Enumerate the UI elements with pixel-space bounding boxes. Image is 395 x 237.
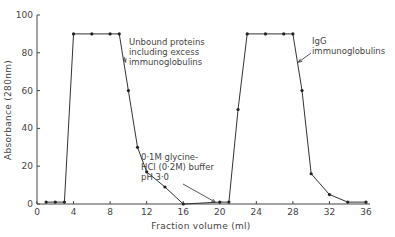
data-point <box>264 32 267 35</box>
x-tick-label: 20 <box>214 207 226 217</box>
x-tick-label: 36 <box>360 207 372 217</box>
data-point <box>282 32 285 35</box>
y-tick-label: 0 <box>27 199 33 209</box>
data-point <box>364 201 367 204</box>
y-tick-label: 60 <box>22 86 34 96</box>
data-point <box>54 201 57 204</box>
data-point <box>236 108 239 111</box>
data-point <box>118 32 121 35</box>
annotations: Unbound proteinsincluding excessimmunogl… <box>123 36 386 202</box>
absorbance-chart: 04812162024283236020406080100 Unbound pr… <box>0 0 395 237</box>
annotation-label: Unbound proteinsincluding excessimmunogl… <box>129 37 205 67</box>
data-point <box>90 32 93 35</box>
x-tick-label: 4 <box>71 207 77 217</box>
y-tick-label: 100 <box>16 10 33 20</box>
data-point <box>109 32 112 35</box>
y-tick-label: 40 <box>22 123 34 133</box>
x-tick-label: 24 <box>251 207 263 217</box>
data-point <box>72 32 75 35</box>
data-series <box>45 32 368 205</box>
data-point <box>136 146 139 149</box>
annotation-arrow <box>298 53 311 62</box>
data-point <box>310 172 313 175</box>
data-point <box>63 201 66 204</box>
x-tick-label: 12 <box>141 207 152 217</box>
data-point <box>328 193 331 196</box>
data-point <box>45 201 48 204</box>
annotation-label: 0·1M glycine-HCl (0·2M) bufferpH 3·0 <box>141 152 214 182</box>
data-point <box>246 32 249 35</box>
data-point <box>127 89 130 92</box>
data-point <box>227 201 230 204</box>
x-axis-label: Fraction volume (ml) <box>151 221 250 231</box>
series-line <box>46 34 366 204</box>
x-tick-label: 16 <box>177 207 189 217</box>
data-point <box>300 89 303 92</box>
data-point <box>218 201 221 204</box>
x-tick-label: 32 <box>324 207 335 217</box>
y-tick-label: 80 <box>22 48 34 58</box>
x-tick-label: 0 <box>34 207 40 217</box>
x-tick-label: 8 <box>107 207 113 217</box>
y-axis-label: Absorbance (280nm) <box>3 60 13 160</box>
annotation-label: IgGimmunoglobulins <box>312 36 386 56</box>
annotation-arrow <box>183 184 215 202</box>
data-point <box>346 201 349 204</box>
data-point <box>163 185 166 188</box>
x-tick-label: 28 <box>287 207 299 217</box>
data-point <box>182 202 185 205</box>
data-point <box>291 32 294 35</box>
y-tick-label: 20 <box>22 161 34 171</box>
